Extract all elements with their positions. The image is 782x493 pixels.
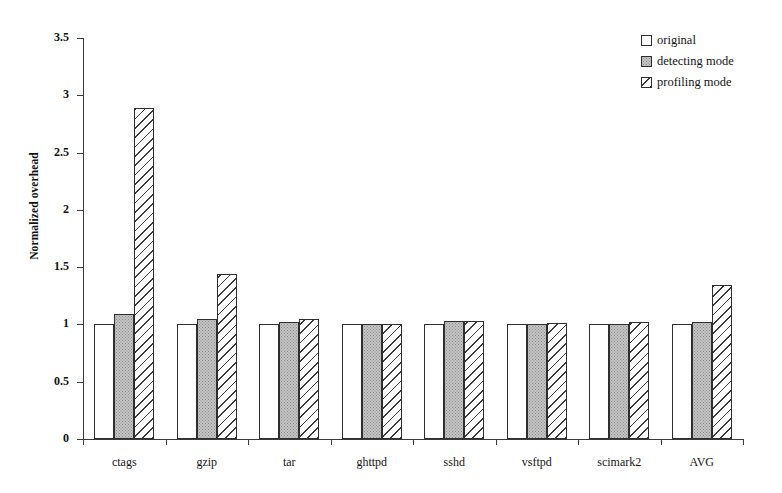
- y-axis-tick: [77, 153, 83, 154]
- bar: [547, 323, 567, 439]
- y-axis-tick-label: 2: [21, 202, 69, 217]
- bar: [712, 285, 732, 439]
- x-axis-label-scimark2: scimark2: [578, 455, 661, 470]
- y-axis-tick: [77, 324, 83, 325]
- x-axis-tick: [331, 439, 332, 445]
- x-axis-label-gzip: gzip: [166, 455, 249, 470]
- bar-group: [259, 38, 319, 439]
- bar: [134, 108, 154, 439]
- y-axis-tick-label: 1: [21, 316, 69, 331]
- y-axis-tick-label: 1.5: [21, 259, 69, 274]
- x-axis-label-vsftpd: vsftpd: [496, 455, 579, 470]
- y-axis-tick-label: 3.5: [21, 30, 69, 45]
- x-axis-tick: [413, 439, 414, 445]
- legend-label: profiling mode: [657, 75, 732, 90]
- y-axis-tick-label: 3: [21, 87, 69, 102]
- legend-label: detecting mode: [657, 54, 734, 69]
- x-axis-label-ctags: ctags: [83, 455, 166, 470]
- bar: [609, 324, 629, 439]
- bar: [114, 314, 134, 439]
- bar-group: [424, 38, 484, 439]
- x-axis-tick: [248, 439, 249, 445]
- x-axis-label-ghttpd: ghttpd: [331, 455, 414, 470]
- legend-item: profiling mode: [641, 72, 771, 92]
- bar: [424, 324, 444, 439]
- legend-item: original: [641, 30, 771, 50]
- x-axis-label-sshd: sshd: [413, 455, 496, 470]
- bar-group: [342, 38, 402, 439]
- bar: [342, 324, 362, 439]
- bar: [299, 319, 319, 439]
- bar: [382, 324, 402, 439]
- bar: [629, 322, 649, 439]
- x-axis-tick: [661, 439, 662, 445]
- legend-item: detecting mode: [641, 51, 771, 71]
- y-axis-tick: [77, 382, 83, 383]
- bar: [197, 319, 217, 439]
- bar-group: [94, 38, 154, 439]
- y-axis-tick: [77, 267, 83, 268]
- bar-chart: Normalized overhead 00.511.522.533.5 cta…: [0, 0, 782, 493]
- x-axis-tick: [496, 439, 497, 445]
- legend-label: original: [657, 33, 696, 48]
- bar: [527, 324, 547, 439]
- legend-swatch-empty: [641, 35, 652, 46]
- bar: [217, 274, 237, 439]
- y-axis-tick: [77, 210, 83, 211]
- bar-group: [507, 38, 567, 439]
- y-axis-tick-label: 0.5: [21, 374, 69, 389]
- legend-swatch-gray-dotted: [641, 56, 652, 67]
- y-axis-line: [83, 38, 84, 440]
- bar: [362, 324, 382, 439]
- x-axis-tick: [166, 439, 167, 445]
- bar-group: [672, 38, 732, 439]
- bar: [444, 321, 464, 439]
- legend: originaldetecting modeprofiling mode: [641, 30, 771, 93]
- y-axis-tick: [77, 95, 83, 96]
- bar-group: [589, 38, 649, 439]
- bar: [692, 322, 712, 439]
- bar: [94, 324, 114, 439]
- x-axis-label-avg: AVG: [661, 455, 744, 470]
- bar: [279, 322, 299, 439]
- x-axis-tick: [578, 439, 579, 445]
- y-axis-tick-label: 0: [21, 431, 69, 446]
- legend-swatch-diagonal-hatch: [641, 77, 652, 88]
- y-axis-tick-label: 2.5: [21, 145, 69, 160]
- bar-group: [177, 38, 237, 439]
- x-axis-tick: [743, 439, 744, 445]
- bar: [177, 324, 197, 439]
- bar: [464, 321, 484, 439]
- x-axis-label-tar: tar: [248, 455, 331, 470]
- x-axis-tick: [83, 439, 84, 445]
- bar: [259, 324, 279, 439]
- y-axis-tick: [77, 38, 83, 39]
- plot-area: 00.511.522.533.5: [83, 38, 743, 440]
- bar: [672, 324, 692, 439]
- bar: [507, 324, 527, 439]
- bar: [589, 324, 609, 439]
